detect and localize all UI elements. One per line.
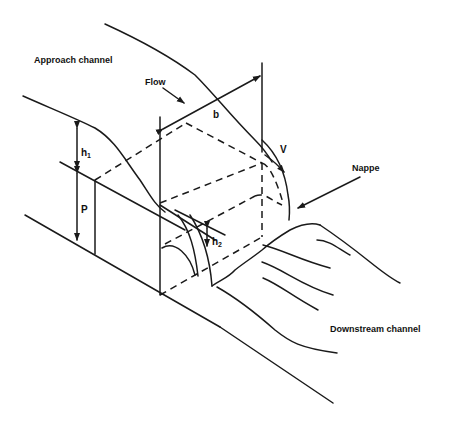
approach-water-surface — [23, 96, 165, 212]
far-bank-line — [105, 24, 272, 162]
nappe-leader — [298, 177, 360, 208]
approach-channel-label: Approach channel — [34, 56, 113, 65]
weir-diagram: Approach channel Flow b V Nappe h1 P h2 … — [0, 0, 449, 425]
velocity-arrow — [265, 155, 284, 172]
dashed-lower — [160, 237, 262, 295]
near-bank-crest-line — [60, 162, 185, 230]
h1-label: h1 — [81, 148, 91, 159]
nappe-jet-1 — [162, 246, 195, 275]
downstream-water-edge — [212, 224, 320, 286]
downstream-wave-5 — [262, 262, 333, 295]
flow-label: Flow — [145, 78, 166, 87]
dashed-upper-top — [186, 123, 262, 163]
nappe-label: Nappe — [352, 164, 380, 173]
p-label: P — [81, 205, 88, 215]
b-dimension — [163, 76, 260, 129]
velocity-label: V — [280, 145, 287, 155]
downstream-bank-line — [220, 327, 333, 403]
downstream-wave-3 — [263, 245, 330, 268]
downstream-wave-2 — [217, 287, 337, 353]
dashed-upper-curve — [262, 163, 283, 203]
dashed-mid-curve — [255, 195, 282, 205]
downstream-wave-1 — [320, 225, 400, 283]
h2-subscript: 2 — [218, 241, 222, 248]
dashed-upper-left — [95, 123, 186, 180]
downstream-channel-label: Downstream channel — [330, 325, 421, 334]
near-bank-bed-line — [25, 215, 220, 327]
flow-arrow — [163, 88, 184, 103]
dashed-upper-mid — [160, 163, 262, 203]
downstream-wave-6 — [263, 278, 318, 310]
b-label: b — [213, 110, 219, 120]
h2-label: h2 — [212, 237, 222, 248]
h1-subscript: 1 — [87, 152, 91, 159]
